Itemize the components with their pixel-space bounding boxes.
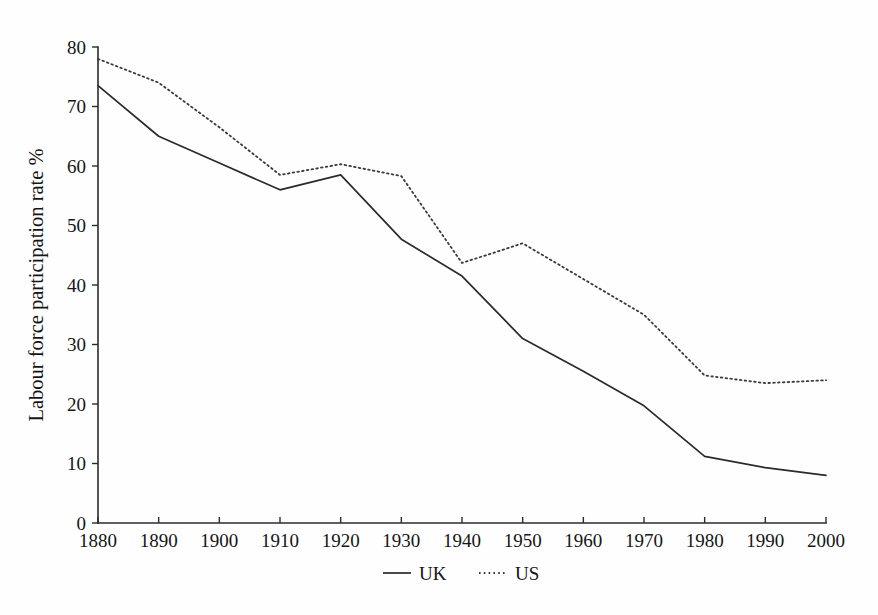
x-tick-label: 1920 — [322, 530, 360, 551]
x-tick-label: 1880 — [79, 530, 117, 551]
x-tick-label: 1980 — [686, 530, 724, 551]
x-tick-label: 1910 — [261, 530, 299, 551]
x-tick-label: 1970 — [625, 530, 663, 551]
x-axis: 1880189019001910192019301940195019601970… — [79, 517, 845, 551]
chart-legend: UKUS — [383, 563, 539, 584]
x-tick-label: 1890 — [140, 530, 178, 551]
y-tick-label: 10 — [67, 453, 86, 474]
series-line-us — [98, 59, 826, 383]
y-axis-title: Labour force participation rate % — [25, 148, 48, 421]
x-tick-label: 1960 — [564, 530, 602, 551]
legend-label-us: US — [515, 563, 539, 584]
y-tick-group: 01020304050607080 — [67, 37, 98, 534]
x-tick-label: 1940 — [443, 530, 481, 551]
y-tick-label: 70 — [67, 96, 86, 117]
x-tick-label: 1900 — [200, 530, 238, 551]
x-tick-group: 1880189019001910192019301940195019601970… — [79, 517, 845, 551]
x-tick-label: 1990 — [746, 530, 784, 551]
y-tick-label: 60 — [67, 156, 86, 177]
y-tick-label: 40 — [67, 275, 86, 296]
series-line-uk — [98, 86, 826, 476]
y-tick-label: 30 — [67, 334, 86, 355]
line-chart: 01020304050607080 Labour force participa… — [0, 0, 878, 615]
legend-label-uk: UK — [419, 563, 447, 584]
x-tick-label: 1930 — [382, 530, 420, 551]
x-tick-label: 2000 — [807, 530, 845, 551]
chart-figure: 01020304050607080 Labour force participa… — [0, 0, 878, 615]
y-tick-label: 80 — [67, 37, 86, 58]
x-tick-label: 1950 — [504, 530, 542, 551]
y-axis: 01020304050607080 Labour force participa… — [25, 37, 98, 534]
y-tick-label: 50 — [67, 215, 86, 236]
plot-area — [98, 59, 826, 476]
y-tick-label: 20 — [67, 394, 86, 415]
